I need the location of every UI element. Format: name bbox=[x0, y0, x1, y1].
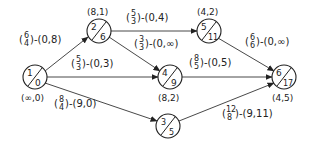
svg-text:-(0,∞): -(0,∞) bbox=[149, 38, 178, 49]
svg-text:4: 4 bbox=[162, 68, 168, 78]
edge-label-5-6: ( 6 6 ) -(0,∞) bbox=[245, 33, 289, 50]
edge-labels: ( 6 4 ) -(0,8) ( 5 3 ) -(0,3) ( 8 4 ) -(… bbox=[19, 9, 289, 122]
node-5-label: (4,2) bbox=[197, 7, 218, 17]
svg-text:3: 3 bbox=[76, 63, 81, 72]
svg-text:(: ( bbox=[126, 12, 130, 23]
svg-text:5: 5 bbox=[194, 62, 199, 71]
edge-label-2-4: ( 3 3 ) -(0,∞) bbox=[134, 35, 178, 52]
svg-text:6: 6 bbox=[250, 41, 255, 50]
svg-text:-(0,4): -(0,4) bbox=[141, 12, 168, 23]
svg-text:3: 3 bbox=[161, 118, 166, 127]
node-6[interactable]: 6 17 (4,5) bbox=[272, 65, 296, 103]
node-5[interactable]: 5 11 (4,2) bbox=[197, 7, 221, 43]
svg-text:(: ( bbox=[245, 36, 249, 47]
node-1[interactable]: 1 0 (∞,0) bbox=[21, 65, 47, 103]
node-4[interactable]: 4 9 (8,2) bbox=[158, 65, 182, 103]
svg-text:(: ( bbox=[19, 34, 23, 45]
svg-text:2: 2 bbox=[91, 22, 97, 32]
svg-text:(: ( bbox=[54, 98, 58, 109]
svg-text:-(0,∞): -(0,∞) bbox=[260, 36, 289, 47]
svg-text:3: 3 bbox=[131, 17, 136, 26]
svg-text:3: 3 bbox=[139, 43, 144, 52]
svg-text:0: 0 bbox=[35, 78, 41, 88]
edge-label-1-2: ( 6 4 ) -(0,8) bbox=[19, 31, 61, 48]
svg-text:-(9,0): -(9,0) bbox=[69, 98, 96, 109]
svg-text:8: 8 bbox=[227, 113, 232, 122]
svg-text:(: ( bbox=[71, 58, 75, 69]
node-6-label: (4,5) bbox=[272, 93, 293, 103]
svg-text:6: 6 bbox=[276, 68, 282, 78]
svg-text:-(0,8): -(0,8) bbox=[34, 34, 61, 45]
node-4-label: (8,2) bbox=[158, 93, 179, 103]
svg-text:4: 4 bbox=[24, 39, 29, 48]
edge-label-4-6: ( 8 5 ) -(0,5) bbox=[189, 54, 231, 71]
svg-text:11: 11 bbox=[208, 33, 218, 42]
svg-text:4: 4 bbox=[59, 103, 64, 112]
svg-text:6: 6 bbox=[100, 32, 106, 42]
svg-text:5: 5 bbox=[169, 128, 174, 137]
node-3[interactable]: 3 5 bbox=[156, 114, 180, 138]
svg-text:-(0,5): -(0,5) bbox=[204, 57, 231, 68]
node-2-label: (8,1) bbox=[87, 7, 108, 17]
svg-text:-(9,11): -(9,11) bbox=[239, 108, 273, 119]
svg-text:-(0,3): -(0,3) bbox=[86, 58, 113, 69]
network-diagram: ( 6 4 ) -(0,8) ( 5 3 ) -(0,3) ( 8 4 ) -(… bbox=[0, 0, 314, 147]
svg-text:17: 17 bbox=[283, 79, 293, 88]
svg-text:5: 5 bbox=[201, 22, 207, 32]
edge-label-1-3: ( 8 4 ) -(9,0) bbox=[54, 95, 96, 112]
edge-label-1-4: ( 5 3 ) -(0,3) bbox=[71, 55, 113, 72]
svg-text:(: ( bbox=[189, 57, 193, 68]
svg-text:(: ( bbox=[134, 38, 138, 49]
node-1-label: (∞,0) bbox=[21, 93, 44, 103]
node-2[interactable]: 2 6 (8,1) bbox=[87, 7, 111, 43]
svg-text:1: 1 bbox=[27, 68, 33, 78]
edge-label-2-5: ( 5 3 ) -(0,4) bbox=[126, 9, 168, 26]
edge-label-3-6: ( 12 8 ) -(9,11) bbox=[222, 105, 273, 122]
svg-text:9: 9 bbox=[171, 78, 177, 88]
